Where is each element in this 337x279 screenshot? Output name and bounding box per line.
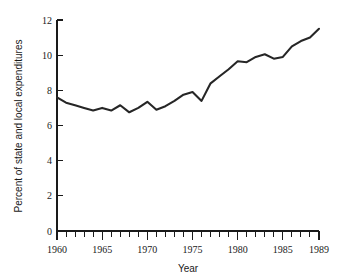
x-tick-label-1960: 1960 [47, 244, 67, 255]
y-tick-label-12: 12 [42, 15, 52, 26]
x-tick-label-1989: 1989 [309, 244, 329, 255]
data-series-line [57, 29, 319, 113]
chart-axes [57, 20, 319, 231]
x-tick-label-1975: 1975 [183, 244, 203, 255]
y-axis-ticks: 024681012 [42, 15, 63, 237]
y-axis-title: Percent of state and local expenditures [13, 40, 24, 213]
x-axis-title: Year [178, 263, 199, 274]
y-tick-label-6: 6 [47, 120, 52, 131]
y-tick-label-4: 4 [47, 155, 52, 166]
y-tick-label-8: 8 [47, 85, 52, 96]
x-tick-label-1980: 1980 [228, 244, 248, 255]
y-tick-label-10: 10 [42, 50, 52, 61]
y-tick-label-2: 2 [47, 190, 52, 201]
x-tick-label-1985: 1985 [273, 244, 293, 255]
line-chart-figure: 024681012 1960196519701975198019851989 Y… [0, 0, 337, 279]
chart-plot-area: 024681012 1960196519701975198019851989 Y… [0, 0, 337, 279]
x-tick-label-1970: 1970 [137, 244, 157, 255]
x-axis-ticks: 1960196519701975198019851989 [47, 231, 329, 255]
y-tick-label-0: 0 [47, 226, 52, 237]
x-tick-label-1965: 1965 [92, 244, 112, 255]
